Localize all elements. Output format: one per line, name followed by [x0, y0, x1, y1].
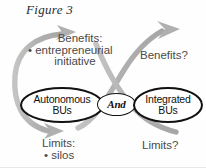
label-limits-left-line2: • silos: [42, 150, 75, 162]
label-limits-right-line1: Limits?: [142, 140, 178, 152]
label-benefits-left-line1: Benefits:: [28, 33, 132, 45]
node-autonomous-line2: BUs: [34, 105, 91, 116]
label-limits-left-line1: Limits:: [42, 138, 75, 150]
node-integrated-line2: BUs: [145, 105, 190, 116]
node-and-connector: And: [97, 93, 136, 116]
label-benefits-right: Benefits?: [140, 50, 188, 62]
label-limits-left: Limits: • silos: [42, 138, 75, 161]
node-autonomous-bus: Autonomous BUs: [20, 87, 104, 123]
node-integrated-bus: Integrated BUs: [133, 87, 203, 123]
label-limits-right: Limits?: [142, 140, 178, 152]
figure-container: Figure 3 Benefits: • entrepreneurial ini…: [0, 0, 206, 168]
node-and-label: And: [107, 99, 125, 110]
label-benefits-left: Benefits: • entrepreneurial initiative: [28, 33, 132, 68]
figure-title: Figure 3: [26, 2, 73, 18]
label-benefits-right-line1: Benefits?: [140, 50, 188, 62]
label-benefits-left-line3: initiative: [28, 56, 132, 68]
